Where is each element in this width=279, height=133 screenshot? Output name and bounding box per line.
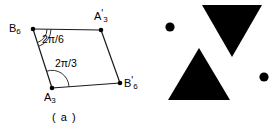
- angle-label-2pi-over-3: 2π/3: [55, 58, 77, 69]
- vertex-label-B6p-sub: 6: [133, 82, 137, 91]
- panel-a-parallelogram: B6 A'3 A3 B'6 2π/6 2π/3 ( a ): [0, 0, 140, 133]
- vertex-label-A3-prime: A'3: [94, 9, 108, 24]
- vertex-label-B6-sub: 6: [16, 27, 20, 36]
- dot-upper-left: [165, 22, 174, 31]
- vertex-label-B6: B6: [9, 23, 21, 36]
- figure-root: B6 A'3 A3 B'6 2π/6 2π/3 ( a ) ( b ): [0, 0, 279, 133]
- vertex-label-B6-prime: B'6: [124, 76, 138, 91]
- triangle-down-shape: [202, 5, 262, 57]
- caption-panel-a: ( a ): [52, 112, 77, 123]
- triangles-drawing: [140, 0, 279, 133]
- angle-arc-A3: [47, 70, 69, 86]
- vertex-dot-A3prime: [99, 28, 104, 33]
- edge-B6-A3prime: [33, 29, 101, 30]
- vertex-dot-B6: [31, 27, 36, 32]
- vertex-label-A3: A3: [44, 92, 56, 105]
- triangle-up-shape: [168, 48, 230, 100]
- vertex-dot-A3: [50, 86, 55, 91]
- edge-A3prime-B6prime: [101, 30, 120, 83]
- vertex-dot-B6prime: [118, 81, 123, 86]
- edge-A3-B6prime: [52, 83, 120, 88]
- vertex-label-A3-sub: 3: [51, 96, 55, 105]
- panel-b-triangles: ( b ): [140, 0, 279, 133]
- vertex-label-A3p-sub: 3: [103, 15, 107, 24]
- angle-label-2pi-over-6: 2π/6: [42, 34, 64, 45]
- dot-lower-right: [259, 72, 268, 81]
